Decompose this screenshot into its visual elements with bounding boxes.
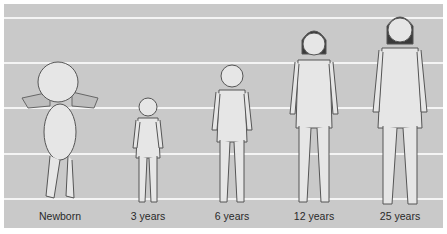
- figure-adult: [373, 17, 427, 204]
- figure-6-years: [212, 65, 252, 202]
- label-newborn: Newborn: [39, 210, 81, 222]
- label-3-years: 3 years: [131, 210, 165, 222]
- figure-newborn: [22, 62, 98, 198]
- figure-3-years: [133, 98, 163, 202]
- label-25-years: 25 years: [380, 210, 420, 222]
- label-12-years: 12 years: [294, 210, 334, 222]
- figure-12-years: [290, 31, 338, 202]
- label-6-years: 6 years: [215, 210, 249, 222]
- figures-illustration: [0, 0, 447, 234]
